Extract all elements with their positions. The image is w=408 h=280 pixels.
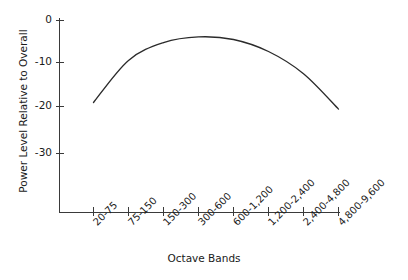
chart-plot-area (0, 0, 408, 280)
y-axis-title: Power Level Relative to Overall (17, 26, 29, 196)
data-series-curve (94, 37, 339, 109)
x-axis-title: Octave Bands (0, 252, 408, 264)
chart-container: 0 -10 -20 -30 20-75 75-150 150-300 300-6… (0, 0, 408, 280)
y-tick-label-0: 0 (18, 13, 52, 25)
